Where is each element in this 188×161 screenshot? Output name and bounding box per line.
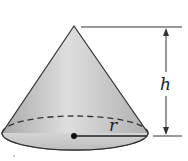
cone-lateral-surface — [2, 26, 148, 150]
speck — [13, 155, 15, 157]
radius-label: r — [109, 115, 118, 135]
base-center-point — [71, 133, 77, 139]
arrow-up-icon — [163, 28, 169, 36]
cone-diagram: r h — [0, 0, 188, 161]
arrow-down-icon — [163, 127, 169, 135]
height-label: h — [160, 74, 171, 94]
